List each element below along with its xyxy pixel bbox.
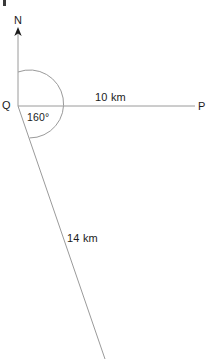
bearing-arc [18, 70, 64, 138]
label-bearing-angle: 160° [27, 112, 50, 123]
label-point-q: Q [2, 100, 11, 111]
label-point-p: P [198, 101, 206, 112]
label-north: N [14, 15, 22, 26]
label-distance-qp: 10 km [95, 92, 126, 103]
label-distance-qr: 14 km [67, 233, 98, 244]
bearing-diagram-canvas [0, 0, 208, 359]
bearing-diagram-figure: N Q P 160° 10 km 14 km [0, 0, 208, 359]
